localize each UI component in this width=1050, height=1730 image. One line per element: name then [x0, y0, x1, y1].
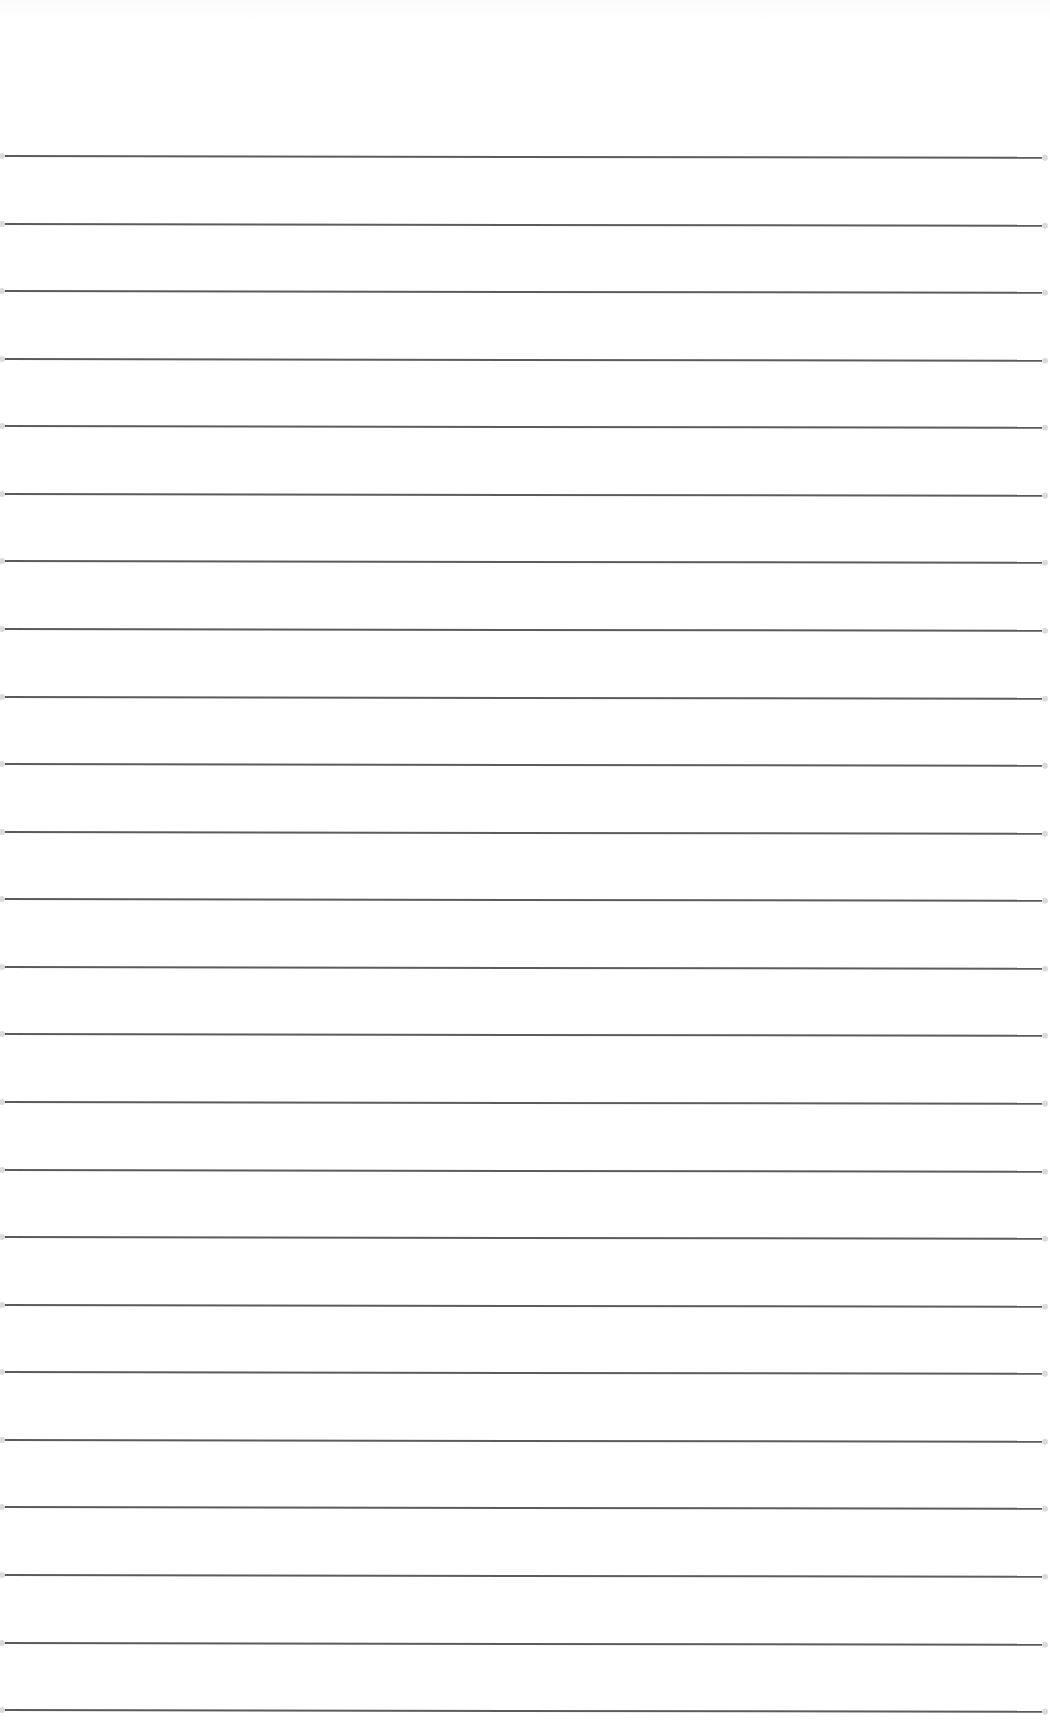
line-start-mark [0, 1234, 5, 1240]
line-end-mark [1042, 358, 1048, 364]
line-start-mark [0, 153, 5, 159]
line-start-mark [0, 1302, 5, 1308]
line-start-mark [0, 356, 5, 362]
ruled-line [4, 1642, 1042, 1646]
ruled-line [4, 966, 1042, 970]
line-start-mark [0, 1640, 5, 1646]
line-end-mark [1042, 1439, 1048, 1445]
line-start-mark [0, 288, 5, 294]
ruled-line [4, 1033, 1042, 1037]
ruled-line [4, 560, 1042, 564]
line-end-mark [1042, 696, 1048, 702]
line-start-mark [0, 829, 5, 835]
ruled-line [4, 290, 1042, 294]
ruled-line [4, 1304, 1042, 1308]
ruled-line [4, 898, 1042, 902]
ruled-line [4, 1101, 1042, 1105]
ruled-line [4, 1169, 1042, 1173]
line-start-mark [0, 1572, 5, 1578]
line-end-mark [1042, 425, 1048, 431]
top-margin [0, 0, 1050, 20]
ruled-line [4, 425, 1042, 429]
line-start-mark [0, 694, 5, 700]
ruled-line [4, 696, 1042, 700]
line-start-mark [0, 1167, 5, 1173]
lined-paper-sheet [0, 0, 1050, 1730]
line-end-mark [1042, 831, 1048, 837]
ruled-line [4, 1709, 1042, 1713]
line-start-mark [0, 896, 5, 902]
line-end-mark [1042, 1709, 1048, 1715]
line-end-mark [1042, 223, 1048, 229]
line-end-mark [1042, 1506, 1048, 1512]
line-end-mark [1042, 1033, 1048, 1039]
line-start-mark [0, 1707, 5, 1713]
line-start-mark [0, 1031, 5, 1037]
line-end-mark [1042, 966, 1048, 972]
ruled-line [4, 1439, 1042, 1443]
line-end-mark [1042, 628, 1048, 634]
line-start-mark [0, 1099, 5, 1105]
line-start-mark [0, 626, 5, 632]
line-end-mark [1042, 493, 1048, 499]
line-end-mark [1042, 763, 1048, 769]
ruled-line [4, 223, 1042, 227]
line-start-mark [0, 558, 5, 564]
line-start-mark [0, 964, 5, 970]
ruled-line [4, 831, 1042, 835]
ruled-line [4, 1371, 1042, 1375]
line-start-mark [0, 221, 5, 227]
line-end-mark [1042, 1101, 1048, 1107]
ruled-line [4, 155, 1042, 159]
line-end-mark [1042, 1169, 1048, 1175]
line-end-mark [1042, 1236, 1048, 1242]
ruled-line [4, 493, 1042, 497]
ruled-line [4, 1506, 1042, 1510]
line-start-mark [0, 491, 5, 497]
line-end-mark [1042, 1574, 1048, 1580]
line-start-mark [0, 761, 5, 767]
line-start-mark [0, 1369, 5, 1375]
line-start-mark [0, 1504, 5, 1510]
line-end-mark [1042, 290, 1048, 296]
line-end-mark [1042, 1304, 1048, 1310]
ruled-line [4, 1236, 1042, 1240]
line-end-mark [1042, 560, 1048, 566]
line-end-mark [1042, 1642, 1048, 1648]
line-start-mark [0, 423, 5, 429]
line-start-mark [0, 1437, 5, 1443]
line-end-mark [1042, 155, 1048, 161]
line-end-mark [1042, 898, 1048, 904]
ruled-line [4, 628, 1042, 632]
line-end-mark [1042, 1371, 1048, 1377]
ruled-line [4, 763, 1042, 767]
ruled-line [4, 358, 1042, 362]
ruled-line [4, 1574, 1042, 1578]
